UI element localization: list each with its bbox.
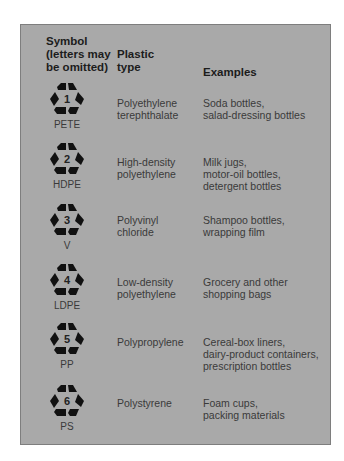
examples: Milk jugs, motor-oil bottles, detergent … (203, 156, 281, 192)
svg-text:1: 1 (64, 93, 70, 105)
plastic-line: Polyvinyl (117, 214, 158, 226)
recycle-triangle-icon: 5 (48, 321, 86, 357)
example-line: shopping bags (203, 288, 288, 300)
plastic-line: Low-density (117, 276, 176, 288)
plastic-line: Polystyrene (117, 397, 172, 409)
examples: Foam cups, packing materials (203, 397, 285, 421)
examples: Grocery and other shopping bags (203, 276, 288, 300)
recycle-triangle-icon: 1 (48, 81, 86, 117)
example-line: motor-oil bottles, (203, 168, 281, 180)
symbol-code: LDPE (45, 300, 89, 311)
example-line: Shampoo bottles, (203, 214, 285, 226)
example-line: Milk jugs, (203, 156, 281, 168)
recycle-symbol-1: 1 PETE (45, 81, 89, 130)
symbol-code: PS (45, 421, 89, 432)
plastic-type: High-density polyethylene (117, 156, 176, 180)
plastic-line: chloride (117, 226, 158, 238)
recycle-triangle-icon: 2 (48, 141, 86, 177)
example-line: packing materials (203, 409, 285, 421)
header-examples: Examples (203, 66, 257, 79)
example-line: Cereal-box liners, (203, 336, 319, 348)
svg-text:2: 2 (64, 153, 70, 165)
symbol-code: V (45, 240, 89, 251)
example-line: Soda bottles, (203, 97, 305, 109)
example-line: detergent bottles (203, 180, 281, 192)
plastic-line: polyethylene (117, 288, 176, 300)
header-symbol-line: (letters may (46, 48, 111, 61)
symbol-code: HDPE (45, 179, 89, 190)
recycle-symbol-6: 6 PS (45, 383, 89, 432)
plastic-type: Polystyrene (117, 397, 172, 409)
symbol-code: PP (45, 359, 89, 370)
header-plastic-line: Plastic (117, 48, 154, 61)
plastic-line: terephthalate (117, 109, 178, 121)
recycle-triangle-icon: 6 (48, 383, 86, 419)
plastic-line: High-density (117, 156, 176, 168)
plastic-line: polyethylene (117, 168, 176, 180)
header-plastic-line: type (117, 61, 154, 74)
svg-text:5: 5 (64, 333, 70, 345)
symbol-code: PETE (45, 119, 89, 130)
plastic-type: Polypropylene (117, 336, 184, 348)
plastic-codes-table: Symbol (letters may be omitted) Plastic … (20, 24, 331, 445)
header-plastic-type: Plastic type (117, 48, 154, 74)
plastic-type: Polyvinyl chloride (117, 214, 158, 238)
recycle-symbol-4: 4 LDPE (45, 262, 89, 311)
header-symbol-line: Symbol (46, 35, 111, 48)
plastic-line: Polypropylene (117, 336, 184, 348)
svg-text:3: 3 (64, 214, 70, 226)
plastic-type: Low-density polyethylene (117, 276, 176, 300)
examples: Cereal-box liners, dairy-product contain… (203, 336, 319, 372)
recycle-triangle-icon: 4 (48, 262, 86, 298)
examples: Shampoo bottles, wrapping film (203, 214, 285, 238)
header-symbol-line: be omitted) (46, 61, 111, 74)
svg-text:6: 6 (64, 395, 70, 407)
svg-text:4: 4 (64, 274, 71, 286)
example-line: Foam cups, (203, 397, 285, 409)
example-line: wrapping film (203, 226, 285, 238)
recycle-symbol-5: 5 PP (45, 321, 89, 370)
recycle-symbol-3: 3 V (45, 202, 89, 251)
example-line: salad-dressing bottles (203, 109, 305, 121)
plastic-line: Polyethylene (117, 97, 178, 109)
examples: Soda bottles, salad-dressing bottles (203, 97, 305, 121)
recycle-symbol-2: 2 HDPE (45, 141, 89, 190)
header-symbol: Symbol (letters may be omitted) (46, 35, 111, 74)
plastic-type: Polyethylene terephthalate (117, 97, 178, 121)
example-line: prescription bottles (203, 360, 319, 372)
example-line: Grocery and other (203, 276, 288, 288)
example-line: dairy-product containers, (203, 348, 319, 360)
recycle-triangle-icon: 3 (48, 202, 86, 238)
